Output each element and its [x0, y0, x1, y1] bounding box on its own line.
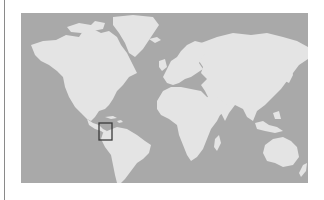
world-map-svg: [21, 13, 308, 183]
southeast-asia-islands: [255, 111, 283, 133]
arctic-islands: [67, 21, 105, 33]
south-america: [101, 127, 151, 183]
left-border-rule: [4, 0, 5, 200]
north-america: [31, 29, 137, 121]
iceland: [149, 37, 161, 43]
new-zealand: [299, 163, 307, 177]
madagascar: [214, 135, 221, 151]
british-isles: [159, 59, 167, 71]
australia: [263, 137, 299, 167]
caribbean-islands: [105, 116, 123, 123]
central-america: [87, 119, 107, 134]
world-map: [21, 13, 308, 183]
